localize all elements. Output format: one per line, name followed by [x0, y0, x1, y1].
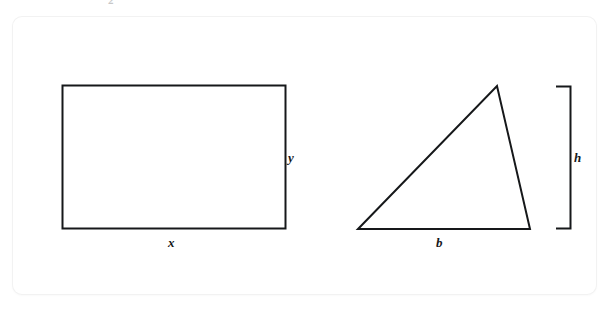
figure-card	[13, 17, 596, 294]
figure-stage: 2 x y b h	[0, 0, 614, 316]
rectangle-height-label: y	[288, 151, 294, 164]
triangle-base-label: b	[436, 236, 443, 249]
page-scan-artifact-glyph: 2	[108, 0, 114, 6]
triangle-height-label: h	[574, 151, 581, 164]
rectangle-width-label: x	[168, 236, 175, 249]
